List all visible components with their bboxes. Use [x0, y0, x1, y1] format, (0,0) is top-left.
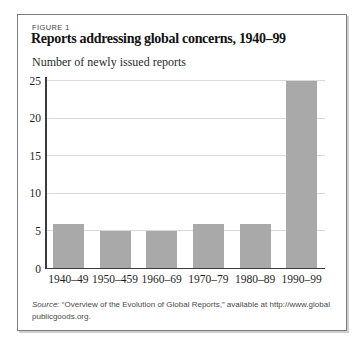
bar-slot: [185, 81, 232, 269]
figure-box: FIGURE 1 Reports addressing global conce…: [17, 14, 347, 331]
y-tick-label-10: 10: [30, 188, 42, 200]
x-tick-label-1950–459: 1950–459: [92, 273, 139, 285]
chart-subtitle: Number of newly issued reports: [32, 55, 186, 70]
plot-area: [45, 81, 325, 269]
bar-slot: [232, 81, 279, 269]
bar-series: [45, 81, 325, 269]
bar-1970–79: [193, 224, 224, 269]
bar-1990–99: [286, 81, 317, 269]
y-tick-label-15: 15: [30, 150, 42, 162]
y-tick-label-0: 0: [35, 263, 41, 275]
source-line1: “Overview of the Evolution of Global Rep…: [62, 300, 330, 309]
bar-slot: [138, 81, 185, 269]
x-tick-label-1970–79: 1970–79: [185, 273, 232, 285]
y-axis-line: [45, 77, 47, 269]
bar-1940–49: [53, 224, 84, 269]
source-prefix: Source:: [32, 300, 60, 309]
chart-title: Reports addressing global concerns, 1940…: [31, 31, 286, 47]
x-tick-label-1980–89: 1980–89: [232, 273, 279, 285]
y-tick-label-5: 5: [35, 226, 41, 238]
y-tick-label-25: 25: [30, 75, 42, 87]
y-axis-labels: 0510152025: [18, 81, 41, 269]
y-tick-label-20: 20: [30, 113, 42, 125]
bar-slot: [278, 81, 325, 269]
x-axis-line: [45, 268, 325, 270]
x-tick-label-1990–99: 1990–99: [278, 273, 325, 285]
screenshot-canvas: FIGURE 1 Reports addressing global conce…: [0, 0, 362, 346]
bar-1980–89: [240, 224, 271, 269]
bar-1960–69: [146, 231, 177, 269]
x-axis-labels: 1940–491950–4591960–691970–791980–891990…: [45, 273, 325, 285]
x-tick-label-1960–69: 1960–69: [138, 273, 185, 285]
bar-slot: [45, 81, 92, 269]
bar-1950–459: [100, 231, 131, 269]
source-note: Source: “Overview of the Evolution of Gl…: [32, 299, 338, 324]
x-tick-label-1940–49: 1940–49: [45, 273, 92, 285]
source-line2: publicgoods.org.: [32, 312, 91, 321]
bar-slot: [92, 81, 139, 269]
